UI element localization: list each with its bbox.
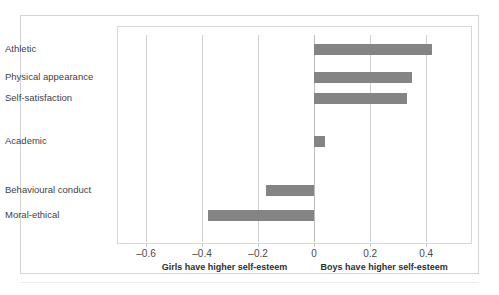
chart-figure: AthleticPhysical appearanceSelf-satisfac… [0, 0, 499, 295]
x-tick-mark [202, 243, 203, 247]
bar [314, 72, 412, 83]
gridline-4 [370, 35, 371, 242]
x-tick-mark [258, 243, 259, 247]
x-tick-label: –0.4 [192, 248, 211, 260]
category-label: Athletic [5, 43, 117, 54]
gridline-5 [426, 35, 427, 242]
cropped-caption-ghost [18, 0, 480, 12]
x-tick-mark [146, 243, 147, 247]
x-tick-mark [314, 243, 315, 247]
page-rule-divider [20, 282, 479, 283]
category-label: Moral-ethical [5, 209, 117, 220]
category-label: Academic [5, 135, 117, 146]
plot-inner-surface [118, 27, 471, 243]
x-tick-mark [426, 243, 427, 247]
plot-area [117, 26, 472, 244]
bar [314, 93, 406, 104]
category-label: Self-satisfaction [5, 92, 117, 103]
x-tick-mark [370, 243, 371, 247]
category-label: Behavioural conduct [5, 184, 117, 195]
gridline-1 [202, 35, 203, 242]
x-tick-label: –0.6 [136, 248, 155, 260]
x-tick-label: 0.4 [419, 248, 433, 260]
boys-higher-note: Boys have higher self-esteem [321, 262, 448, 273]
bar [314, 136, 325, 147]
category-axis-labels: AthleticPhysical appearanceSelf-satisfac… [27, 26, 117, 244]
x-tick-label: 0.2 [363, 248, 377, 260]
x-tick-label: –0.2 [248, 248, 267, 260]
x-tick-label: 0 [311, 248, 317, 260]
bar [266, 185, 314, 196]
bar [208, 210, 314, 221]
gridline-0 [146, 35, 147, 242]
category-label: Physical appearance [5, 71, 117, 82]
bar [314, 44, 432, 55]
girls-higher-note: Girls have higher self-esteem [162, 262, 288, 273]
